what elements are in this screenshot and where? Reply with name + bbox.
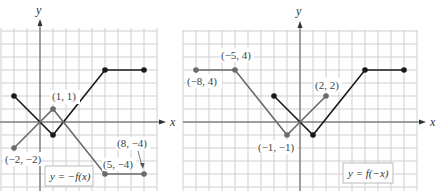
right-y-label: y: [295, 4, 302, 18]
right-annotation-neg5-4: (−5, 4): [221, 49, 251, 62]
right-y-arrow-icon: [298, 21, 303, 28]
left-panel: y x (1, 1) (−2, −2) (5, −4) (8, −4) y = …: [0, 3, 176, 191]
left-x-label: x: [169, 115, 176, 129]
right-annotation-neg1-neg1: (−1, −1): [258, 141, 295, 154]
right-caption: y = f(−x): [347, 167, 389, 180]
right-panel: y x (−5, 4) (−8, 4) (2, 2) (−1, −1) y = …: [183, 4, 436, 191]
left-annotation-1-1: (1, 1): [52, 90, 76, 103]
left-annotation-8-neg4: (8, −4): [117, 137, 147, 150]
graph-figure: y x (1, 1) (−2, −2) (5, −4) (8, −4) y = …: [0, 0, 436, 191]
left-x-arrow-icon: [159, 120, 166, 125]
right-x-arrow-icon: [419, 120, 426, 125]
left-y-label: y: [35, 3, 42, 17]
right-x-label: x: [429, 115, 436, 129]
left-annotation-neg2-neg2: (−2, −2): [5, 153, 42, 166]
left-caption: y = −f(x): [49, 170, 91, 183]
right-annotation-2-2: (2, 2): [315, 79, 339, 92]
right-annotation-neg8-4: (−8, 4): [187, 75, 217, 88]
left-annotation-5-neg4: (5, −4): [103, 158, 133, 171]
left-y-arrow-icon: [38, 19, 43, 26]
